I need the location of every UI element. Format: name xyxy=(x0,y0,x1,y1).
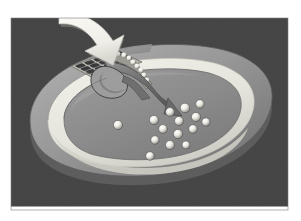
illustration-canvas xyxy=(0,0,301,221)
figure-stage: Cut-away cross-section of a rounded caps… xyxy=(0,0,301,221)
figure-frame xyxy=(0,0,301,221)
